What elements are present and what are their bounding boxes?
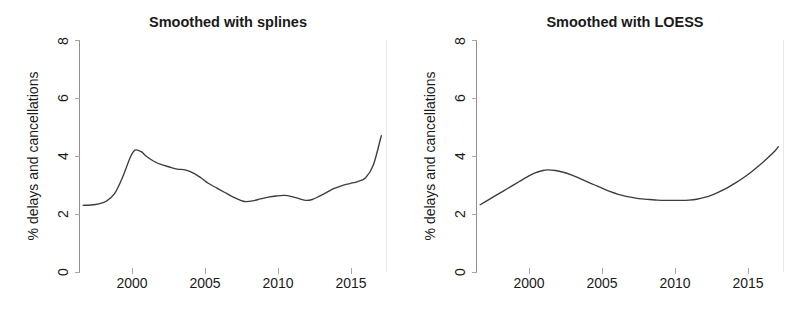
y-tick-label-0-splines: 0 bbox=[55, 268, 71, 276]
x-tick-label-2015-loess: 2015 bbox=[732, 275, 763, 291]
x-tick-label-2010-loess: 2010 bbox=[659, 275, 690, 291]
y-tick-label-8-loess: 8 bbox=[452, 37, 468, 45]
y-tick-label-2-splines: 2 bbox=[55, 210, 71, 218]
x-tick-label-2005-splines: 2005 bbox=[189, 275, 220, 291]
data-curve-loess bbox=[480, 147, 778, 205]
x-tick-label-2000-splines: 2000 bbox=[116, 275, 147, 291]
y-tick-label-8-splines: 8 bbox=[55, 37, 71, 45]
figure-container: Smoothed with splines % delays and cance… bbox=[0, 0, 794, 313]
y-axis-label-loess: % delays and cancellations bbox=[422, 72, 438, 241]
y-tick-label-2-loess: 2 bbox=[452, 210, 468, 218]
chart-panel-loess: Smoothed with LOESS % delays and cancell… bbox=[397, 0, 794, 313]
x-tick-label-2015-splines: 2015 bbox=[335, 275, 366, 291]
y-tick-label-4-loess: 4 bbox=[452, 152, 468, 160]
y-tick-label-0-loess: 0 bbox=[452, 268, 468, 276]
x-tick-label-2000-loess: 2000 bbox=[513, 275, 544, 291]
y-axis-label-splines: % delays and cancellations bbox=[25, 72, 41, 241]
splines-plot-svg: Smoothed with splines % delays and cance… bbox=[0, 0, 397, 313]
panel-title-loess: Smoothed with LOESS bbox=[546, 14, 703, 30]
y-tick-label-4-splines: 4 bbox=[55, 152, 71, 160]
loess-plot-svg: Smoothed with LOESS % delays and cancell… bbox=[397, 0, 794, 313]
y-tick-label-6-loess: 6 bbox=[452, 94, 468, 102]
panel-title-splines: Smoothed with splines bbox=[149, 14, 307, 30]
chart-panel-splines: Smoothed with splines % delays and cance… bbox=[0, 0, 397, 313]
x-tick-label-2005-loess: 2005 bbox=[586, 275, 617, 291]
y-tick-label-6-splines: 6 bbox=[55, 94, 71, 102]
data-curve-splines bbox=[83, 136, 381, 206]
x-tick-label-2010-splines: 2010 bbox=[262, 275, 293, 291]
